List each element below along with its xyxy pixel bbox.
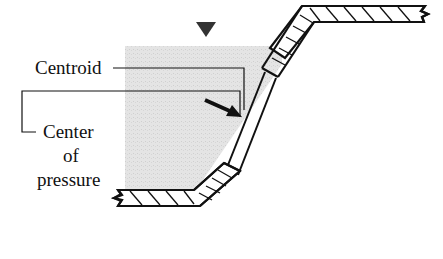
upper-wall — [262, 6, 428, 77]
center-of-pressure-label-line1: Center — [43, 121, 94, 142]
diagram-canvas: Centroid Center of pressure — [0, 0, 443, 259]
center-of-pressure-label-line3: pressure — [37, 169, 100, 190]
free-surface-marker-icon — [196, 22, 216, 37]
centroid-label: Centroid — [35, 57, 102, 78]
center-of-pressure-label-line2: of — [63, 145, 80, 166]
